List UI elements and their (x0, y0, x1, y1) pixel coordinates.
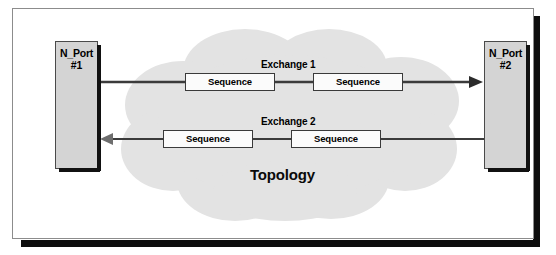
n-port-2-shadow-bottom (488, 168, 529, 172)
n-port-2-label-line1: N_Port (485, 47, 526, 59)
topology-caption: Topology (250, 166, 315, 183)
figure-frame: N_Port #1 N_Port #2 Exchange 1 Sequence … (12, 8, 534, 239)
sequence-box-exchange1-second: Sequence (313, 73, 403, 91)
n-port-2-label-line2: #2 (485, 59, 526, 71)
sequence-box-exchange1-first: Sequence (185, 73, 275, 91)
exchange-2-label: Exchange 2 (261, 116, 316, 127)
n-port-1-label-line1: N_Port (56, 47, 97, 59)
n-port-2-shadow-right (526, 45, 530, 171)
sequence-box-exchange2-first: Sequence (163, 130, 253, 148)
n-port-2: N_Port #2 (484, 41, 527, 169)
n-port-1-label-line2: #1 (56, 59, 97, 71)
n-port-1-shadow-right (97, 45, 101, 171)
n-port-1-shadow-bottom (59, 168, 100, 172)
exchange-1-label: Exchange 1 (261, 59, 316, 70)
sequence-box-exchange2-second: Sequence (291, 130, 381, 148)
n-port-1: N_Port #1 (55, 41, 98, 169)
